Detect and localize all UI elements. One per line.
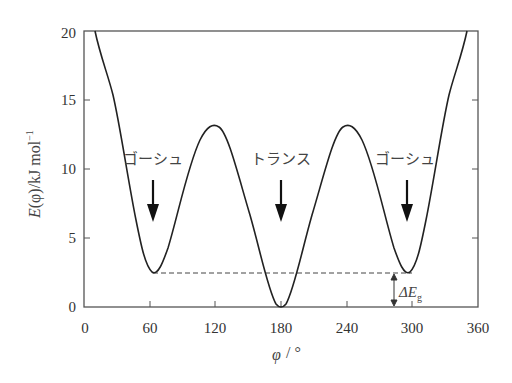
- y-axis-sup: −1: [24, 130, 35, 141]
- y-tick-0: 0: [69, 299, 77, 315]
- x-tick-180: 180: [270, 320, 293, 336]
- energy-chart: 0 5 10 15 20 0 60 120 180 240 300 360 φ …: [0, 0, 512, 383]
- x-tick-360: 360: [467, 320, 490, 336]
- energy-curve: [95, 31, 467, 307]
- x-tick-0: 0: [81, 320, 89, 336]
- x-tick-240: 240: [336, 320, 359, 336]
- y-axis-unit: /kJ mol: [26, 140, 43, 188]
- svg-text:E(φ)/kJ mol−1: E(φ)/kJ mol−1: [24, 130, 44, 219]
- gauche-right-arrow: [401, 180, 413, 222]
- x-tick-60: 60: [143, 320, 158, 336]
- y-axis-title: E(φ)/kJ mol−1: [24, 130, 44, 219]
- trans-arrow: [275, 180, 287, 222]
- delta-e-label: ΔEg: [398, 284, 422, 303]
- y-tick-20: 20: [61, 25, 76, 41]
- x-ticks: [150, 301, 412, 307]
- x-tick-300: 300: [401, 320, 424, 336]
- y-axis-paren: (φ): [26, 188, 44, 208]
- trans-label: トランス: [251, 151, 311, 167]
- x-tick-120: 120: [204, 320, 227, 336]
- y-axis-e: E: [26, 208, 43, 219]
- x-axis-unit: / °: [286, 344, 301, 361]
- plot-frame: [84, 31, 478, 307]
- delta-e-arrow: [391, 274, 397, 306]
- y-tick-15: 15: [61, 92, 76, 108]
- y-tick-5: 5: [69, 230, 77, 246]
- x-axis-phi: φ: [272, 346, 281, 364]
- gauche-left-arrow: [147, 180, 159, 222]
- y-tick-10: 10: [61, 161, 76, 177]
- gauche-left-label: ゴーシュ: [123, 150, 183, 167]
- gauche-right-label: ゴーシュ: [375, 150, 435, 167]
